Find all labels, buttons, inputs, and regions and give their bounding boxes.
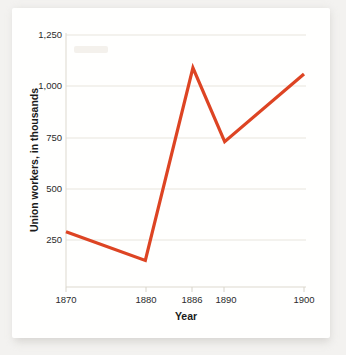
x-tick-label-1900: 1900	[293, 294, 314, 305]
x-tick-labels: 1870 1880 1886 1890 1900	[55, 294, 314, 305]
gridlines	[66, 35, 306, 240]
series-line-union-workers	[66, 68, 304, 261]
y-tick-labels: 1,250 1,000 750 500 250	[38, 29, 62, 245]
x-tick-label-1870: 1870	[55, 294, 76, 305]
y-tick-label-500: 500	[46, 183, 62, 194]
chart-page: 1,250 1,000 750 500 250 1870 1880 1886 1…	[0, 0, 346, 355]
y-tick-label-1000: 1,000	[38, 80, 62, 91]
x-tick-label-1886: 1886	[181, 294, 202, 305]
y-tick-label-1250: 1,250	[38, 29, 62, 40]
scan-artifact	[74, 46, 108, 53]
y-axis-title: Union workers, in thousands	[28, 88, 40, 232]
x-axis-title: Year	[175, 310, 197, 322]
y-tick-label-250: 250	[46, 234, 62, 245]
line-chart: 1,250 1,000 750 500 250 1870 1880 1886 1…	[0, 0, 346, 355]
x-tick-label-1890: 1890	[215, 294, 236, 305]
x-tick-label-1880: 1880	[135, 294, 156, 305]
x-tickmarks	[66, 287, 304, 292]
y-tick-label-750: 750	[46, 132, 62, 143]
